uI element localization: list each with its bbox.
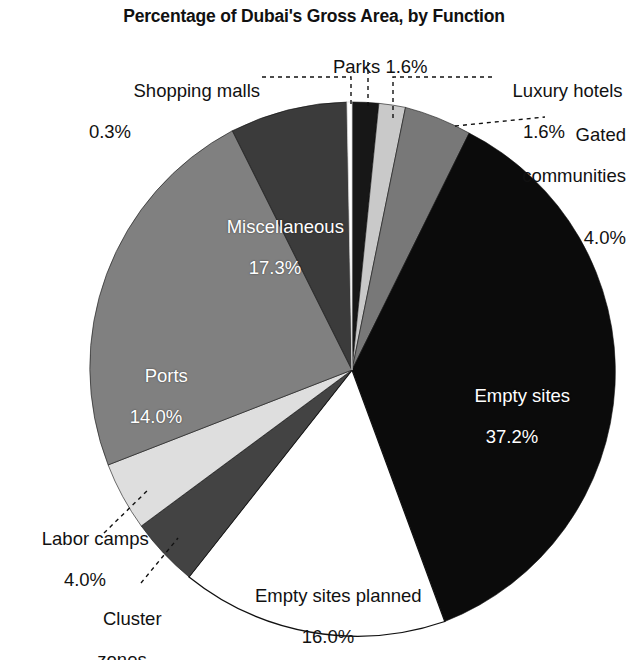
label-miscellaneous: Miscellaneous 17.3% <box>175 196 375 320</box>
label-empty-sites-planned-text: Empty sites planned <box>255 585 422 606</box>
label-empty-sites-pct: 37.2% <box>428 427 596 448</box>
label-gated-communities: Gated communities 4.0% <box>470 104 626 290</box>
label-empty-sites-text: Empty sites <box>474 385 570 406</box>
label-gated-communities-pct: 4.0% <box>470 228 626 249</box>
label-empty-sites: Empty sites 37.2% <box>428 365 596 489</box>
label-cluster-zones: Cluster zones 4.0% <box>62 588 182 660</box>
label-ports-pct: 14.0% <box>92 407 220 428</box>
label-miscellaneous-pct: 17.3% <box>175 258 375 279</box>
label-shopping-malls: Shopping malls 0.3% <box>20 60 260 184</box>
label-cluster-zones-line2: zones <box>62 650 182 660</box>
label-empty-sites-planned: Empty sites planned 16.0% <box>218 565 438 660</box>
label-shopping-malls-pct: 0.3% <box>20 122 260 143</box>
label-cluster-zones-line1: Cluster <box>103 608 162 629</box>
pie-chart-figure: Percentage of Dubai's Gross Area, by Fun… <box>0 0 628 660</box>
label-luxury-hotels-text: Luxury hotels <box>513 80 623 101</box>
label-parks-text: Parks 1.6% <box>333 56 428 77</box>
label-labor-camps-text: Labor camps <box>42 528 149 549</box>
label-miscellaneous-text: Miscellaneous <box>227 216 344 237</box>
label-ports-text: Ports <box>145 365 188 386</box>
label-gated-communities-line1: Gated <box>576 124 626 145</box>
label-ports: Ports 14.0% <box>92 345 220 469</box>
label-shopping-malls-text: Shopping malls <box>134 80 261 101</box>
label-empty-sites-planned-pct: 16.0% <box>218 627 438 648</box>
label-parks: Parks 1.6% <box>290 36 450 98</box>
label-gated-communities-line2: communities <box>470 166 626 187</box>
